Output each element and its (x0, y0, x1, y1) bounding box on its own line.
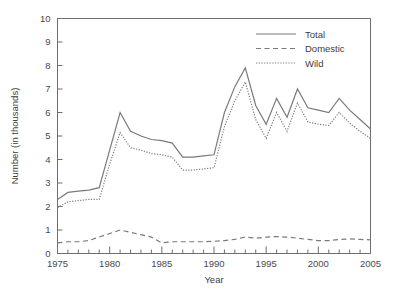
y-tick-label-7: 7 (45, 83, 50, 94)
series-line-total (58, 68, 371, 200)
y-axis-ticks (58, 19, 63, 254)
x-tick-label-1985: 1985 (151, 258, 172, 269)
y-axis-tick-labels: 012345678910 (40, 13, 51, 259)
series-line-wild (58, 82, 371, 208)
y-tick-label-1: 1 (45, 224, 50, 235)
x-tick-label-1990: 1990 (203, 258, 224, 269)
y-tick-label-2: 2 (45, 201, 50, 212)
series-line-domestic (58, 230, 371, 243)
x-tick-label-1975: 1975 (47, 258, 68, 269)
chart-legend: TotalDomesticWild (256, 29, 345, 69)
x-tick-label-2005: 2005 (360, 258, 381, 269)
x-axis-title: Year (204, 274, 223, 285)
data-series-layer (58, 68, 371, 243)
y-tick-label-9: 9 (45, 36, 50, 47)
x-axis-major-ticks (58, 247, 371, 254)
x-tick-label-1980: 1980 (99, 258, 120, 269)
chart-canvas: 012345678910 197519801985199019952000200… (0, 0, 407, 293)
y-axis-title: Number (in thousands) (9, 88, 20, 185)
x-tick-label-1995: 1995 (256, 258, 277, 269)
line-chart-figure: 012345678910 197519801985199019952000200… (0, 0, 407, 293)
legend-label-domestic: Domestic (305, 43, 345, 54)
y-tick-label-10: 10 (40, 13, 51, 24)
y-tick-label-4: 4 (45, 154, 50, 165)
legend-label-total: Total (305, 29, 325, 40)
y-tick-label-5: 5 (45, 130, 50, 141)
y-tick-label-8: 8 (45, 60, 50, 71)
y-tick-label-3: 3 (45, 177, 50, 188)
x-axis-tick-labels: 1975198019851990199520002005 (47, 258, 381, 269)
legend-label-wild: Wild (305, 58, 323, 69)
x-tick-label-2000: 2000 (308, 258, 329, 269)
y-tick-label-6: 6 (45, 107, 50, 118)
